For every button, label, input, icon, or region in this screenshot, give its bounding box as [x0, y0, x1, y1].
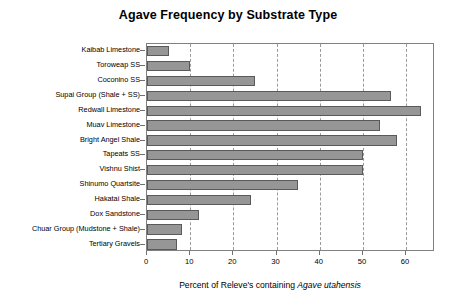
bar-row [147, 207, 433, 222]
bar-row [147, 237, 433, 252]
bar-row [147, 193, 433, 208]
bar [147, 210, 199, 220]
x-axis: 0102030405060 [146, 251, 434, 277]
bar-series [147, 44, 433, 250]
bar [147, 46, 169, 56]
bar [147, 165, 363, 175]
x-axis-title: Percent of Releve's containing Agave uta… [100, 280, 440, 290]
y-axis-tick [140, 154, 145, 155]
bar [147, 150, 363, 160]
bar-row [147, 222, 433, 237]
y-axis-tick [140, 184, 145, 185]
x-axis-tick-label: 50 [349, 257, 375, 266]
y-axis-tick-label: Muav Limestone [0, 121, 140, 129]
bar [147, 61, 190, 71]
y-axis-tick-label: Toroweap SS [0, 61, 140, 69]
y-axis-tick-label: Supai Group (Shale + SS) [0, 91, 140, 99]
bar [147, 224, 182, 234]
bar-row [147, 74, 433, 89]
bar [147, 135, 397, 145]
chart-title: Agave Frequency by Substrate Type [0, 8, 456, 22]
y-axis-tick [140, 229, 145, 230]
x-axis-tick-label: 20 [219, 257, 245, 266]
bar-row [147, 89, 433, 104]
y-axis-tick [140, 125, 145, 126]
x-axis-tick [276, 251, 277, 255]
x-axis-tick-label: 60 [392, 257, 418, 266]
y-axis-tick-label: Kaibab Limestone [0, 46, 140, 54]
y-axis-tick-label: Hakatai Shale [0, 195, 140, 203]
bar-row [147, 148, 433, 163]
bar [147, 180, 298, 190]
y-axis-tick-label: Dox Sandstone [0, 210, 140, 218]
bar [147, 239, 177, 249]
y-axis-tick [140, 214, 145, 215]
bar [147, 76, 255, 86]
y-axis-tick [140, 199, 145, 200]
bar-row [147, 133, 433, 148]
y-axis-tick-label: Redwall Limestone [0, 106, 140, 114]
x-axis-tick-label: 30 [263, 257, 289, 266]
x-axis-tick [146, 251, 147, 255]
x-axis-tick [405, 251, 406, 255]
y-axis-tick [140, 50, 145, 51]
y-axis-labels: Kaibab LimestoneToroweap SSCoconino SSSu… [0, 43, 140, 251]
y-axis-tick-label: Coconino SS [0, 76, 140, 84]
y-axis-tick-label: Vishnu Shist [0, 165, 140, 173]
x-axis-tick [319, 251, 320, 255]
bar [147, 195, 251, 205]
y-axis-tick [140, 80, 145, 81]
x-axis-tick [362, 251, 363, 255]
x-axis-tick-label: 10 [176, 257, 202, 266]
x-axis-tick-label: 0 [133, 257, 159, 266]
x-axis-tick-label: 40 [306, 257, 332, 266]
bar-row [147, 103, 433, 118]
bar-row [147, 118, 433, 133]
x-axis-title-text: Percent of Releve's containing [179, 280, 297, 290]
y-axis-tick [140, 244, 145, 245]
x-axis-tick [189, 251, 190, 255]
bar [147, 106, 421, 116]
bar-row [147, 178, 433, 193]
y-axis-tick-label: Chuar Group (Mudstone + Shale) [0, 225, 140, 233]
y-axis-tick-label: Shinumo Quartsite [0, 180, 140, 188]
bar-row [147, 59, 433, 74]
y-axis-tick-label: Bright Angel Shale [0, 136, 140, 144]
bar [147, 120, 380, 130]
y-axis-tick-label: Tertiary Gravels [0, 240, 140, 248]
y-axis-tick-label: Tapeats SS [0, 150, 140, 158]
bar-row [147, 44, 433, 59]
plot-area [146, 43, 434, 251]
y-axis-tick [140, 169, 145, 170]
x-axis-tick [232, 251, 233, 255]
bar-row [147, 163, 433, 178]
y-axis-tick [140, 140, 145, 141]
y-axis-tick [140, 110, 145, 111]
bar [147, 91, 391, 101]
chart-figure: Agave Frequency by Substrate Type Kaibab… [0, 0, 456, 307]
y-axis-tick [140, 95, 145, 96]
y-axis-tick [140, 65, 145, 66]
x-axis-title-species: Agave utahensis [297, 280, 361, 290]
